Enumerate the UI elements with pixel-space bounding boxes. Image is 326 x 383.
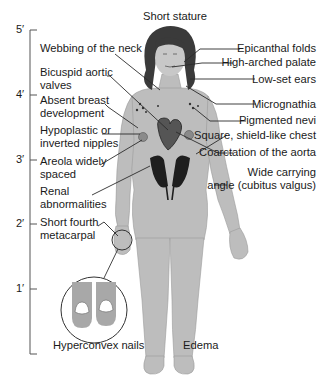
label-epicanthal-folds: Epicanthal folds [237,42,316,55]
label-hypoplastic-nipples: Hypoplastic orinverted nipples [40,124,118,150]
label-renal-abnormalities: Renalabnormalities [40,185,107,211]
label-shield-like-chest: Square, shield-like chest [194,129,316,142]
scale-tick-5ft: 5′ [16,23,24,35]
scale-tick-3ft: 3′ [16,153,24,165]
label-hyperconvex-nails: Hyperconvex nails [53,339,144,352]
label-bicuspid-aortic-valves: Bicuspid aorticvalves [40,66,113,92]
label-edema: Edema [183,339,218,352]
label-micrognathia: Micrognathia [252,98,316,111]
label-absent-breast-development: Absent breastdevelopment [40,94,109,120]
label-high-arched-palate: High-arched palate [221,56,316,69]
label-pigmented-nevi: Pigmented nevi [239,114,316,127]
label-webbing-of-neck: Webbing of the neck [40,42,142,55]
scale-tick-1ft: 1′ [16,282,24,294]
height-scale-bar [30,30,37,354]
label-cubitus-valgus: Wide carryingangle (cubitus valgus) [207,166,316,192]
label-short-fourth-metacarpal: Short fourthmetacarpal [40,216,98,242]
label-areola-widely-spaced: Areola widelyspaced [40,155,107,181]
label-coarctation-of-aorta: Coarctation of the aorta [199,146,316,159]
body-silhouette [114,74,248,374]
scale-tick-4ft: 4′ [16,88,24,100]
scale-tick-2ft: 2′ [16,217,24,229]
label-low-set-ears: Low-set ears [252,73,316,86]
